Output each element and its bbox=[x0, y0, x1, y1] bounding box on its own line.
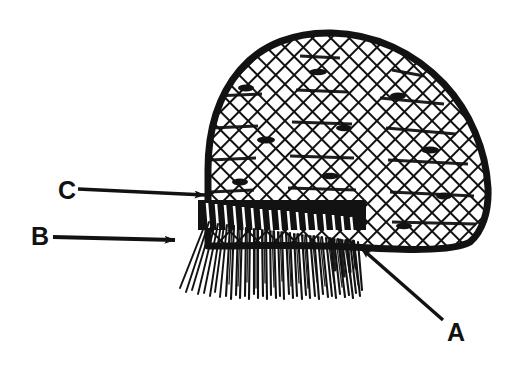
leader-line-c bbox=[78, 189, 205, 195]
leader-line-b bbox=[53, 237, 175, 240]
cap-illustration: C B A bbox=[0, 0, 515, 381]
label-c: C bbox=[58, 176, 76, 204]
leader-line-a bbox=[361, 248, 443, 320]
label-a: A bbox=[447, 318, 465, 346]
figure-container: C B A bbox=[0, 0, 515, 381]
label-b: B bbox=[31, 222, 49, 250]
